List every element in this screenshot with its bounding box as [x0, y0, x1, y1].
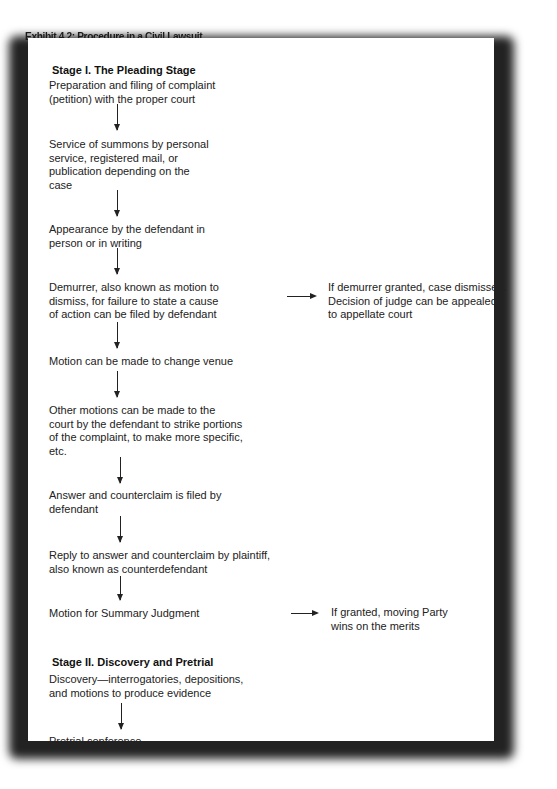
- arrow-down-icon: [120, 457, 121, 483]
- step-8: Reply to answer and counterclaim by plai…: [49, 549, 270, 576]
- side-note-demurrer: If demurrer granted, case dismissed. Dec…: [328, 281, 507, 322]
- arrow-down-icon: [117, 322, 118, 348]
- side-note-summary-judgment: If granted, moving Party wins on the mer…: [331, 606, 448, 633]
- arrow-down-icon: [121, 703, 122, 729]
- step-discovery: Discovery—interrogatories, depositions, …: [49, 673, 243, 700]
- stage2-heading: Stage II. Discovery and Pretrial: [52, 656, 213, 668]
- step-pretrial: Pretrial conference: [49, 735, 141, 749]
- step-1: Preparation and filing of complaint (pet…: [49, 79, 215, 106]
- step-9: Motion for Summary Judgment: [49, 607, 199, 621]
- arrow-down-icon: [117, 371, 118, 397]
- step-4: Demurrer, also known as motion to dismis…: [49, 281, 219, 322]
- arrow-down-icon: [117, 190, 118, 216]
- arrow-down-icon: [120, 576, 121, 600]
- arrow-right-icon: [287, 296, 315, 297]
- step-3: Appearance by the defendant in person or…: [49, 223, 205, 250]
- stage1-heading: Stage I. The Pleading Stage: [52, 64, 196, 76]
- arrow-down-icon: [117, 104, 118, 130]
- step-2: Service of summons by personal service, …: [49, 138, 209, 192]
- arrow-down-icon: [117, 248, 118, 274]
- arrow-right-icon: [291, 613, 317, 614]
- step-5: Motion can be made to change venue: [49, 355, 233, 369]
- step-6: Other motions can be made to the court b…: [49, 404, 243, 458]
- arrow-down-icon: [120, 516, 121, 542]
- step-7: Answer and counterclaim is filed by defe…: [49, 489, 221, 516]
